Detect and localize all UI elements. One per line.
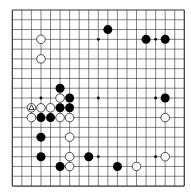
white-stone[interactable] (56, 113, 65, 122)
white-stone[interactable] (132, 162, 141, 171)
go-board[interactable] (0, 0, 191, 195)
star-point (97, 38, 100, 41)
white-stone[interactable] (37, 55, 46, 64)
black-stone[interactable] (103, 25, 112, 34)
white-stone[interactable] (65, 113, 74, 122)
black-stone[interactable] (65, 103, 74, 112)
star-point (97, 97, 100, 100)
black-stone[interactable] (113, 162, 122, 171)
black-stone[interactable] (36, 133, 45, 142)
white-stone[interactable] (65, 152, 74, 161)
black-stone[interactable] (56, 162, 65, 171)
black-stone[interactable] (65, 94, 74, 103)
white-stone[interactable] (37, 35, 46, 44)
white-stone[interactable] (56, 94, 65, 103)
white-stone[interactable] (46, 104, 55, 113)
black-stone[interactable] (56, 103, 65, 112)
star-point (154, 97, 157, 100)
white-stone[interactable] (161, 152, 170, 161)
star-point (154, 155, 157, 158)
black-stone[interactable] (36, 152, 45, 161)
black-stone[interactable] (161, 35, 170, 44)
black-stone[interactable] (56, 84, 65, 93)
black-stone[interactable] (161, 94, 170, 103)
star-point (154, 38, 157, 41)
black-stone[interactable] (46, 113, 55, 122)
black-stone[interactable] (36, 113, 45, 122)
white-stone[interactable] (37, 104, 46, 113)
star-point (40, 97, 43, 100)
black-stone[interactable] (84, 152, 93, 161)
white-stone[interactable] (65, 162, 74, 171)
star-point (97, 155, 100, 158)
black-stone[interactable] (142, 35, 151, 44)
white-stone[interactable] (65, 133, 74, 142)
white-stone[interactable] (27, 113, 36, 122)
white-stone[interactable] (161, 113, 170, 122)
